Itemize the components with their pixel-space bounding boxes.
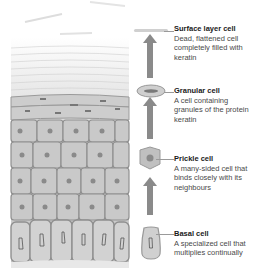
label-title: Basal cell — [174, 229, 258, 239]
up-arrow-surface — [147, 42, 153, 78]
leader-line-prickle — [156, 159, 174, 160]
label-description: A many-sided cell that binds closely wit… — [174, 164, 247, 192]
up-arrow-prickle — [147, 185, 153, 215]
label-description: A specialized cell that multiplies conti… — [174, 239, 246, 258]
label-prickle-cell: Prickle cell A many-sided cell that bind… — [174, 154, 258, 192]
prickle-cell-icon — [138, 146, 162, 170]
basal-cell-icon — [140, 226, 162, 260]
leader-line-granular — [164, 92, 174, 93]
granular-cell-icon — [136, 84, 166, 98]
up-arrow-granular — [147, 105, 153, 139]
leader-line-basal — [156, 234, 174, 235]
label-description: Dead, flattened cell completely filled w… — [174, 34, 243, 62]
label-granular-cell: Granular cell A cell containing granules… — [174, 86, 258, 124]
label-title: Granular cell — [174, 86, 258, 96]
label-basal-cell: Basal cell A specialized cell that multi… — [174, 229, 258, 258]
label-title: Prickle cell — [174, 154, 258, 164]
label-surface-layer-cell: Surface layer cell Dead, flattened cell … — [174, 24, 258, 62]
surface-cell-icon — [134, 29, 168, 32]
epidermis-cross-section — [0, 0, 140, 278]
label-description: A cell containing granules of the protei… — [174, 96, 249, 124]
leader-line-surface — [164, 31, 174, 32]
flake-shape — [25, 14, 62, 22]
label-title: Surface layer cell — [174, 24, 258, 34]
